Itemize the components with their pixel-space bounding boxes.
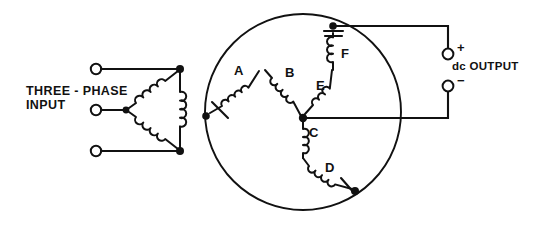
schematic-canvas: THREE - PHASE INPUT bbox=[0, 0, 552, 227]
three-phase-input-group bbox=[91, 64, 180, 156]
winding-label-d: D bbox=[325, 160, 334, 175]
ring-node-left bbox=[202, 112, 210, 120]
delta-coil-right bbox=[180, 71, 186, 149]
output-wire-positive bbox=[333, 26, 448, 48]
delta-node-bottom-right bbox=[176, 147, 184, 155]
armature-ring-group bbox=[205, 14, 401, 210]
dc-output-terminal-negative[interactable] bbox=[443, 81, 454, 92]
negative-sign-label: − bbox=[457, 73, 465, 88]
positive-sign-label: + bbox=[457, 40, 465, 55]
schematic-diagram: THREE - PHASE INPUT bbox=[0, 0, 552, 227]
delta-coil-upper bbox=[129, 71, 178, 108]
three-phase-input-caption-line2: INPUT bbox=[26, 98, 66, 112]
delta-node-top-right bbox=[176, 65, 184, 73]
winding-label-f: F bbox=[341, 46, 349, 61]
dc-output-terminal-positive[interactable] bbox=[443, 49, 454, 60]
input-terminal-bottom[interactable] bbox=[91, 146, 101, 156]
delta-winding-group bbox=[123, 65, 187, 155]
input-terminal-middle[interactable] bbox=[91, 105, 101, 115]
dc-output-wiring-group bbox=[303, 26, 453, 118]
armature-nodes-group bbox=[202, 22, 359, 195]
dc-output-label: dc OUTPUT bbox=[452, 60, 519, 72]
three-phase-input-caption-line1: THREE - PHASE bbox=[26, 84, 128, 98]
winding-label-c: C bbox=[309, 125, 319, 140]
winding-label-e: E bbox=[316, 78, 325, 93]
delta-node-apex bbox=[123, 107, 130, 114]
winding-label-b: B bbox=[285, 65, 294, 80]
output-wire-negative bbox=[303, 92, 448, 118]
ring-node-bottom-right bbox=[351, 187, 359, 195]
input-terminal-top[interactable] bbox=[91, 64, 101, 74]
armature-ring-circle bbox=[205, 14, 401, 210]
winding-coil-b bbox=[265, 70, 301, 116]
winding-coil-f bbox=[327, 33, 333, 70]
winding-coil-c bbox=[303, 121, 309, 158]
winding-label-a: A bbox=[234, 63, 244, 78]
delta-coil-lower bbox=[129, 112, 178, 149]
